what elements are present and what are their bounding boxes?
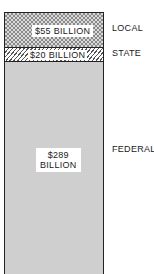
state-value-label: $20 BILLION — [28, 50, 87, 60]
federal-value-unit: BILLION — [40, 160, 77, 170]
category-label-local: LOCAL — [112, 23, 143, 33]
federal-value-amount: $289 — [40, 150, 77, 160]
category-label-state: STATE — [112, 48, 141, 58]
segment-state: $20 BILLION — [5, 48, 103, 62]
stacked-bar: $55 BILLION $20 BILLION $289 BILLION — [4, 12, 104, 274]
segment-local: $55 BILLION — [5, 13, 103, 48]
federal-value-label: $289 BILLION — [36, 148, 81, 172]
category-label-federal: FEDERAL — [112, 144, 154, 154]
segment-federal: $289 BILLION — [5, 62, 103, 274]
local-value-label: $55 BILLION — [32, 25, 93, 37]
